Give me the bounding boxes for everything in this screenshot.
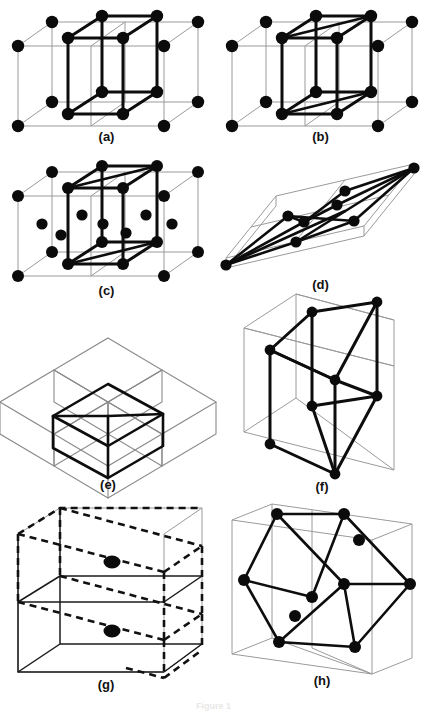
panel-g: (g) xyxy=(6,502,206,702)
thin-outer-cell-h xyxy=(232,504,412,674)
bold-cube-f xyxy=(270,302,377,474)
interior-atoms-g xyxy=(104,556,121,638)
panel-g-diagram xyxy=(6,502,206,682)
panel-d-diagram xyxy=(218,158,423,278)
panel-a-label: (a) xyxy=(4,130,209,143)
panel-d: (d) xyxy=(218,158,423,303)
panel-e: (e) xyxy=(8,330,208,495)
panel-c-diagram xyxy=(4,152,209,284)
panel-h: (h) xyxy=(222,502,422,702)
panel-f-diagram xyxy=(222,292,422,482)
panel-h-label: (h) xyxy=(222,674,422,687)
panel-a-diagram xyxy=(4,2,209,130)
figure-sheet: (a) xyxy=(0,0,427,714)
panel-b: (b) xyxy=(218,2,423,148)
panel-c-label: (c) xyxy=(4,284,209,297)
panel-f-label: (f) xyxy=(222,480,422,493)
panel-h-diagram xyxy=(222,502,422,680)
panel-a: (a) xyxy=(4,2,209,148)
panel-g-label: (g) xyxy=(6,678,206,691)
panel-b-label: (b) xyxy=(218,130,423,143)
panel-b-diagram xyxy=(218,2,423,130)
bold-primitive-cell-e xyxy=(53,384,163,478)
atoms-h xyxy=(238,508,416,653)
figure-bottom-caption: Figure 1 xyxy=(0,702,427,711)
dashed-inclined-cell-g xyxy=(18,508,202,678)
panel-e-diagram xyxy=(8,330,208,480)
bold-bonds-d xyxy=(226,168,414,265)
panel-c: (c) xyxy=(4,152,209,302)
panel-e-label: (e) xyxy=(8,478,208,491)
panel-d-label: (d) xyxy=(218,278,423,291)
panel-f: (f) xyxy=(222,292,422,492)
